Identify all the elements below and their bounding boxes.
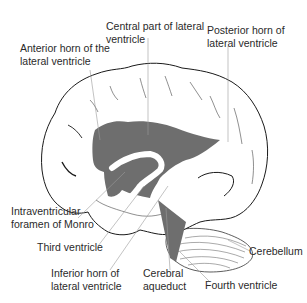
label-line: foramen of Monro	[11, 218, 94, 231]
label-line: Central part of lateral	[106, 20, 204, 33]
label-inferior-horn: Inferior horn of lateral ventricle	[51, 267, 122, 292]
label-line: ventricle	[106, 33, 204, 46]
label-cerebral-aqueduct: Cerebral aqueduct	[143, 267, 186, 292]
label-line: Anterior horn of the	[20, 42, 110, 55]
label-line: lateral ventricle	[51, 280, 122, 293]
label-line: Fourth ventricle	[205, 279, 277, 292]
label-line: aqueduct	[143, 280, 186, 293]
label-line: Cerebral	[143, 267, 186, 280]
label-line: lateral ventricle	[20, 55, 110, 68]
label-line: Posterior horn of	[207, 24, 285, 37]
label-line: Third ventricle	[37, 241, 103, 254]
label-central-part: Central part of lateral ventricle	[106, 20, 204, 45]
label-line: Inferior horn of	[51, 267, 122, 280]
label-line: Cerebellum	[249, 245, 303, 258]
label-cerebellum: Cerebellum	[249, 245, 303, 258]
label-third-ventricle: Third ventricle	[37, 241, 103, 254]
label-foramen-monro: Intraventricular foramen of Monro	[11, 205, 94, 230]
label-anterior-horn: Anterior horn of the lateral ventricle	[20, 42, 110, 67]
label-fourth-ventricle: Fourth ventricle	[205, 279, 277, 292]
label-line: lateral ventricle	[207, 37, 285, 50]
label-line: Intraventricular	[11, 205, 94, 218]
label-posterior-horn: Posterior horn of lateral ventricle	[207, 24, 285, 49]
